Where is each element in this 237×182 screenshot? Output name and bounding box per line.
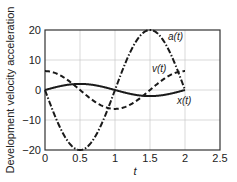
ytick-0: 0	[35, 84, 41, 96]
chart: a(t) v(t) x(t) 20 10 0 −10 −20 0 0.5 1 1…	[0, 0, 237, 182]
xtick-0: 0	[42, 152, 48, 164]
ytick-10: 10	[29, 54, 41, 66]
ytick-20: 20	[29, 24, 41, 36]
xtick-1.5: 1.5	[142, 152, 157, 164]
a-label: a(t)	[168, 31, 183, 42]
x-axis-label: t	[133, 165, 137, 177]
xtick-0.5: 0.5	[72, 152, 87, 164]
ytick-neg20: −20	[22, 144, 41, 156]
xtick-2: 2	[182, 152, 188, 164]
y-axis-label: Development velocity acceleration	[4, 7, 16, 174]
xtick-2.5: 2.5	[212, 152, 227, 164]
xtick-1: 1	[112, 152, 118, 164]
ytick-neg10: −10	[22, 114, 41, 126]
x-label: x(t)	[176, 95, 191, 106]
v-label: v(t)	[152, 63, 166, 74]
